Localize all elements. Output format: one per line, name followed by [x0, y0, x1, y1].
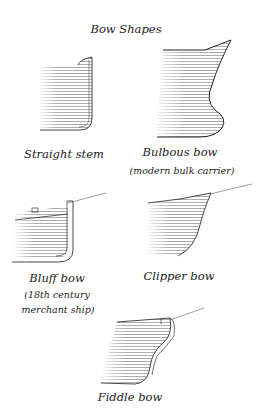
label-bluff-bow: Bluff bow: [29, 271, 84, 285]
bow-drawings: [0, 0, 264, 415]
subtitle-bluff-bow-line2: merchant ship): [21, 302, 94, 317]
bulbous-bow-drawing: [157, 40, 231, 137]
label-clipper-bow: Clipper bow: [144, 269, 215, 283]
straight-stem-drawing: [40, 57, 92, 130]
label-straight-stem: Straight stem: [24, 147, 104, 161]
subtitle-bulbous-bow: (modern bulk carrier): [130, 163, 235, 178]
subtitle-bluff-bow-line1: (18th century: [24, 287, 90, 302]
fiddle-bow-drawing: [101, 308, 204, 384]
clipper-bow-drawing: [148, 184, 252, 256]
page-title: Bow Shapes: [90, 22, 161, 36]
label-fiddle-bow: Fiddle bow: [98, 390, 163, 404]
label-bulbous-bow: Bulbous bow: [143, 145, 218, 159]
bluff-bow-drawing: [12, 193, 106, 262]
